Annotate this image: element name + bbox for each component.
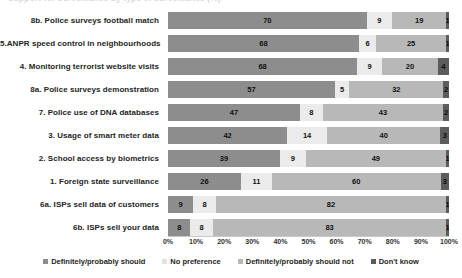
category-label: 2. School access by biometrics — [0, 150, 163, 167]
bar-segment: 83 — [213, 219, 446, 236]
x-tick-label: 90% — [414, 238, 428, 245]
chart-title: Support for surveillance by type of surv… — [8, 0, 221, 3]
legend-label: Definitely/probably should not — [246, 257, 354, 266]
bar-segment-value: 25 — [407, 39, 415, 48]
bar-segment: 19 — [392, 12, 446, 29]
bar-segment: 26 — [168, 173, 241, 190]
bar-segment: 2 — [443, 104, 449, 121]
bar-segment-value: 1 — [446, 223, 449, 232]
legend-item[interactable]: Definitely/probably should not — [238, 257, 354, 266]
bar-segment-value: 2 — [444, 85, 448, 94]
x-tick-label: 60% — [330, 238, 344, 245]
bar-segment-value: 9 — [179, 200, 183, 209]
bar-segment: 32 — [349, 81, 443, 98]
category-label: 4. Monitoring terrorist website visits — [0, 58, 163, 75]
bar-segment: 2 — [443, 81, 449, 98]
bar-segment-value: 8 — [177, 223, 181, 232]
bar-segment: 14 — [287, 127, 327, 144]
bar-row: 399491 — [168, 150, 449, 167]
bar-segment-value: 1 — [446, 39, 449, 48]
bar-segment-value: 4 — [441, 62, 445, 71]
bar-segment-value: 6 — [365, 39, 369, 48]
category-label: 7. Police use of DNA databases — [0, 104, 163, 121]
bar-segment-value: 8 — [200, 223, 204, 232]
bar-segment-value: 5 — [340, 85, 344, 94]
category-label: 6b. ISPs sell your data — [0, 219, 163, 236]
bar-row: 478432 — [168, 104, 449, 121]
bar-row: 575322 — [168, 81, 449, 98]
bar-segment: 5 — [335, 81, 350, 98]
bar-segment-value: 39 — [220, 154, 228, 163]
bar-segment-value: 11 — [253, 177, 261, 186]
category-label: 6a. ISPs sell data of customers — [0, 196, 163, 213]
bar-segment: 8 — [190, 219, 212, 236]
bar-rows: 7091916862516892045753224784324214403399… — [168, 12, 449, 236]
bar-segment-value: 70 — [263, 16, 271, 25]
bar-row: 689204 — [168, 58, 449, 75]
bar-segment-value: 57 — [247, 85, 255, 94]
bar-segment: 42 — [168, 127, 287, 144]
bar-segment-value: 1 — [446, 16, 449, 25]
chart-title-strip: Support for surveillance by type of surv… — [0, 0, 462, 11]
legend-swatch-icon — [43, 259, 48, 264]
bar-segment-value: 1 — [446, 154, 449, 163]
bar-segment: 8 — [300, 104, 322, 121]
bar-segment: 6 — [359, 35, 376, 52]
bar-segment: 9 — [357, 58, 382, 75]
bar-segment: 8 — [168, 219, 190, 236]
x-tick-label: 40% — [273, 238, 287, 245]
bar-segment-value: 42 — [223, 131, 231, 140]
x-axis-ticks: 0%10%20%30%40%50%60%70%80%90%100% — [168, 238, 449, 250]
category-label: 8b. Police surveys football match — [0, 12, 163, 29]
legend-item[interactable]: No preference — [162, 257, 220, 266]
bar-row: 98821 — [168, 196, 449, 213]
bar-segment: 57 — [168, 81, 335, 98]
bar-segment-value: 1 — [446, 200, 449, 209]
bar-segment: 9 — [280, 150, 306, 167]
bar-segment-value: 60 — [352, 177, 360, 186]
bar-segment: 68 — [168, 58, 357, 75]
bar-segment: 3 — [441, 173, 449, 190]
x-tick-label: 20% — [217, 238, 231, 245]
bar-row: 686251 — [168, 35, 449, 52]
category-label: 3. Usage of smart meter data — [0, 127, 163, 144]
legend-item[interactable]: Definitely/probably should — [43, 257, 145, 266]
bar-segment: 60 — [272, 173, 441, 190]
category-axis-labels: 8b. Police surveys football match5.ANPR … — [0, 12, 163, 236]
bar-segment-value: 9 — [368, 62, 372, 71]
bar-segment: 4 — [438, 58, 449, 75]
bar-segment: 39 — [168, 150, 280, 167]
bar-segment-value: 9 — [291, 154, 295, 163]
x-tick-label: 30% — [245, 238, 259, 245]
bar-segment-value: 68 — [258, 62, 266, 71]
bar-segment: 25 — [376, 35, 446, 52]
bar-segment-value: 47 — [230, 108, 238, 117]
bar-segment-value: 8 — [202, 200, 206, 209]
bar-segment: 1 — [446, 196, 449, 213]
category-label: 5.ANPR speed control in neighbourhoods — [0, 35, 163, 52]
bar-segment-value: 3 — [443, 131, 447, 140]
bar-segment: 40 — [327, 127, 441, 144]
legend-swatch-icon — [238, 259, 243, 264]
bar-segment-value: 40 — [380, 131, 388, 140]
bar-segment: 49 — [306, 150, 447, 167]
x-axis-line — [168, 236, 449, 237]
bar-segment: 9 — [168, 196, 193, 213]
legend-swatch-icon — [162, 259, 167, 264]
legend-swatch-icon — [371, 259, 376, 264]
bar-segment: 9 — [367, 12, 393, 29]
legend-label: No preference — [170, 257, 220, 266]
bar-segment: 20 — [382, 58, 438, 75]
legend-item[interactable]: Don't know — [371, 257, 419, 266]
bar-segment-value: 68 — [259, 39, 267, 48]
bar-segment: 1 — [446, 35, 449, 52]
bar-segment-value: 83 — [325, 223, 333, 232]
bar-segment: 47 — [168, 104, 300, 121]
x-tick-label: 10% — [189, 238, 203, 245]
category-label: 1. Foreign state surveillance — [0, 173, 163, 190]
chart-legend: Definitely/probably shouldNo preferenceD… — [0, 257, 462, 266]
bar-segment-value: 9 — [377, 16, 381, 25]
bar-segment: 8 — [193, 196, 215, 213]
bar-segment-value: 26 — [200, 177, 208, 186]
x-tick-label: 70% — [358, 238, 372, 245]
